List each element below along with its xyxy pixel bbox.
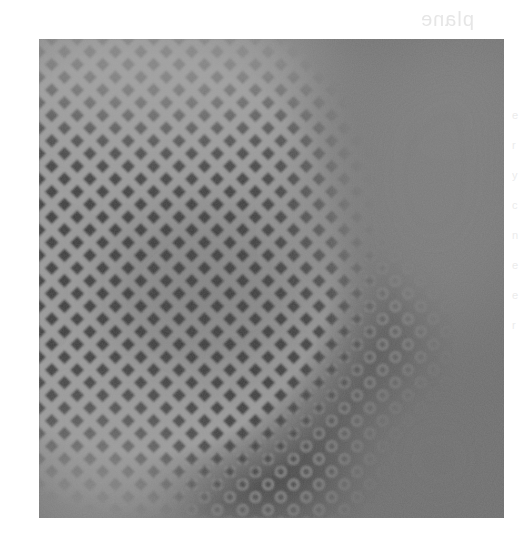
bleed-through-mark: e [512,100,529,130]
bleed-through-mark: e [512,280,529,310]
bleed-through-mark: r [512,130,529,160]
bleed-through-margin: erycneer [512,100,529,480]
halftone-texture [39,39,504,518]
bleed-through-mark: e [512,250,529,280]
bleed-through-text: plane [420,8,474,31]
bleed-through-mark: c [512,190,529,220]
halftone-photo [39,39,504,518]
bleed-through-mark: n [512,220,529,250]
bleed-through-mark: y [512,160,529,190]
film-grain [39,39,504,518]
bleed-through-mark: r [512,310,529,340]
